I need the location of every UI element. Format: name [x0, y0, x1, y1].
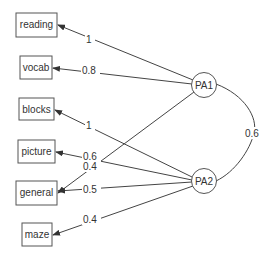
observed-blocks[interactable]: blocks — [19, 98, 54, 120]
observed-general[interactable]: general — [16, 181, 57, 205]
loading-label: 0.6 — [83, 151, 97, 162]
node-label: maze — [25, 229, 50, 240]
edge-pa2-picture: 0.6 — [56, 151, 192, 180]
node-label: general — [20, 187, 53, 198]
node-label: PA1 — [195, 80, 214, 91]
edge-pa1-vocab: 0.8 — [53, 64, 192, 84]
edge-pa1-general: 0.4 — [58, 92, 194, 193]
node-label: reading — [20, 19, 53, 30]
loading-label: 0.5 — [83, 184, 97, 195]
observed-vocab[interactable]: vocab — [20, 56, 52, 79]
correlation-pa1-pa2: 0.6 — [216, 84, 264, 181]
edge-pa1-reading: 1 — [58, 25, 193, 80]
observed-maze[interactable]: maze — [22, 223, 52, 246]
observed-reading[interactable]: reading — [16, 13, 57, 37]
observed-picture[interactable]: picture — [18, 140, 55, 163]
loading-label: 0.8 — [82, 65, 96, 76]
loading-label: 1 — [86, 34, 92, 45]
edge-pa2-blocks: 1 — [55, 110, 192, 177]
loading-label: 1 — [86, 120, 92, 131]
loading-label: 0.4 — [83, 214, 97, 225]
loading-label: 0.4 — [83, 161, 97, 172]
latent-pa2[interactable]: PA2 — [192, 169, 217, 194]
node-label: PA2 — [195, 176, 214, 187]
path-diagram: 1 0.8 0.4 1 0.6 0.5 0.4 0.6 readi — [0, 0, 270, 258]
latent-pa1[interactable]: PA1 — [192, 73, 217, 98]
edge-pa2-maze: 0.4 — [53, 186, 193, 235]
correlation-label: 0.6 — [245, 128, 259, 139]
node-label: picture — [21, 146, 51, 157]
node-label: vocab — [23, 62, 50, 73]
node-label: blocks — [22, 104, 50, 115]
